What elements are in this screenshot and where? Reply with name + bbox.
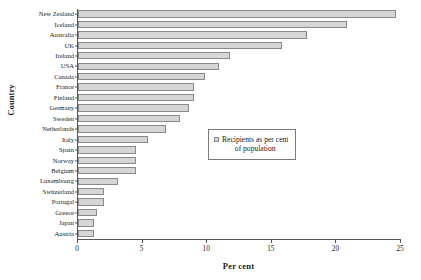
bar-category-label: Italy bbox=[62, 136, 74, 143]
bar bbox=[78, 125, 166, 132]
legend-swatch-icon bbox=[214, 137, 219, 142]
bar-category-label: Austria bbox=[55, 230, 74, 237]
bar-category-label: Spain bbox=[59, 147, 74, 154]
plot-area: New ZealandIcelandAustraliaUKIrelandUSAC… bbox=[77, 9, 400, 239]
bar-category-label: Iceland bbox=[55, 21, 74, 28]
y-axis-tick bbox=[75, 35, 78, 36]
bar bbox=[78, 73, 205, 80]
bar-row: Japan bbox=[77, 218, 400, 228]
bar-row: Austria bbox=[77, 229, 400, 239]
y-axis-tick bbox=[75, 66, 78, 67]
bar bbox=[78, 115, 180, 122]
bar bbox=[78, 188, 104, 195]
bar-category-label: Japan bbox=[59, 220, 74, 227]
x-axis-tick-label: 15 bbox=[267, 245, 274, 253]
bar bbox=[78, 178, 118, 185]
bar bbox=[78, 198, 104, 205]
bar-row: Australia bbox=[77, 30, 400, 40]
bar-category-label: Netherlands bbox=[42, 126, 74, 133]
bar-category-label: France bbox=[56, 84, 74, 91]
bar-row: UK bbox=[77, 40, 400, 50]
y-axis-tick bbox=[75, 24, 78, 25]
x-axis-tick bbox=[400, 239, 401, 243]
bar-row: Sweden bbox=[77, 114, 400, 124]
bar-row: Ireland bbox=[77, 51, 400, 61]
y-axis-tick bbox=[75, 150, 78, 151]
bar bbox=[78, 167, 136, 174]
bar-category-label: Ireland bbox=[55, 53, 74, 60]
y-axis-tick bbox=[75, 212, 78, 213]
bar-chart: Country New ZealandIcelandAustraliaUKIre… bbox=[0, 0, 421, 280]
bar bbox=[78, 52, 230, 59]
x-axis-title: Per cent bbox=[77, 261, 400, 271]
bar bbox=[78, 10, 396, 17]
x-axis-tick-label: 25 bbox=[396, 245, 403, 253]
bar-category-label: Finland bbox=[54, 95, 74, 102]
y-axis-tick bbox=[75, 129, 78, 130]
x-axis-line bbox=[77, 239, 400, 240]
y-axis-tick bbox=[75, 181, 78, 182]
bar-category-label: Sweden bbox=[53, 115, 74, 122]
y-axis-tick bbox=[75, 87, 78, 88]
y-axis-tick bbox=[75, 191, 78, 192]
bar-row: Switzerland bbox=[77, 187, 400, 197]
x-axis-tick-label: 5 bbox=[140, 245, 144, 253]
bar-category-label: Norway bbox=[53, 157, 74, 164]
x-axis-tick bbox=[77, 239, 78, 243]
legend-label: Recipients as per cent of population bbox=[222, 135, 288, 154]
bar bbox=[78, 94, 194, 101]
bar bbox=[78, 42, 282, 49]
bar-row: Finland bbox=[77, 93, 400, 103]
y-axis-tick bbox=[75, 14, 78, 15]
bar bbox=[78, 31, 307, 38]
x-axis-tick bbox=[206, 239, 207, 243]
y-axis-tick bbox=[75, 139, 78, 140]
y-axis-tick bbox=[75, 118, 78, 119]
bar-category-label: Switzerland bbox=[43, 189, 75, 196]
bar-row: Luxembourg bbox=[77, 176, 400, 186]
bar bbox=[78, 63, 219, 70]
y-axis-tick bbox=[75, 171, 78, 172]
y-axis-title: Country bbox=[6, 65, 16, 135]
x-axis-tick-label: 0 bbox=[75, 245, 79, 253]
bar-category-label: Portugal bbox=[52, 199, 74, 206]
bar-category-label: Germany bbox=[49, 105, 74, 112]
bar-category-label: UK bbox=[64, 42, 74, 49]
bar-row: Canada bbox=[77, 72, 400, 82]
bar-row: Iceland bbox=[77, 19, 400, 29]
legend: Recipients as per cent of population bbox=[208, 129, 296, 160]
y-axis-tick bbox=[75, 160, 78, 161]
y-axis-tick bbox=[75, 223, 78, 224]
y-axis-tick bbox=[75, 97, 78, 98]
y-axis-tick bbox=[75, 233, 78, 234]
bar bbox=[78, 21, 347, 28]
x-axis-tick bbox=[335, 239, 336, 243]
x-axis-tick-label: 20 bbox=[332, 245, 339, 253]
bar-category-label: Luxembourg bbox=[40, 178, 74, 185]
bar-row: New Zealand bbox=[77, 9, 400, 19]
y-axis-tick bbox=[75, 45, 78, 46]
bar-category-label: USA bbox=[61, 63, 74, 70]
y-axis-tick bbox=[75, 202, 78, 203]
y-axis-tick bbox=[75, 108, 78, 109]
bar-category-label: Canada bbox=[54, 74, 74, 81]
bar bbox=[78, 136, 148, 143]
bar bbox=[78, 219, 94, 226]
x-axis-tick-label: 10 bbox=[203, 245, 210, 253]
y-axis-tick bbox=[75, 56, 78, 57]
bar bbox=[78, 209, 97, 216]
x-axis-tick bbox=[271, 239, 272, 243]
bar-row: Germany bbox=[77, 103, 400, 113]
bar-category-label: New Zealand bbox=[39, 11, 74, 18]
bar-row: Portugal bbox=[77, 197, 400, 207]
bar-category-label: Australia bbox=[50, 32, 74, 39]
bar bbox=[78, 146, 136, 153]
bar bbox=[78, 104, 189, 111]
bar-row: Belgium bbox=[77, 166, 400, 176]
bar-category-label: Greece bbox=[55, 210, 74, 217]
bar-row: France bbox=[77, 82, 400, 92]
bar-row: USA bbox=[77, 61, 400, 71]
bar bbox=[78, 157, 136, 164]
y-axis-tick bbox=[75, 76, 78, 77]
bar-category-label: Belgium bbox=[51, 168, 74, 175]
